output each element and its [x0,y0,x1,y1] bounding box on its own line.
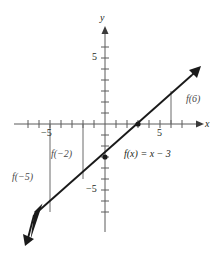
x-tick-label-neg5: −5 [41,127,52,138]
label-f-6: f(6) [186,93,200,104]
graph-canvas [0,0,222,255]
point-y-intercept [102,154,107,159]
x-axis-arrowhead [196,121,204,128]
x-tick-label-pos5: 5 [157,127,162,138]
y-axis-arrowhead [102,26,109,34]
function-equation-label: f(x) = x − 3 [124,148,171,159]
y-axis [101,26,109,232]
label-f-neg2: f(−2) [51,148,72,159]
y-tick-label-neg5: −5 [86,183,97,194]
label-f-neg5: f(−5) [12,171,33,182]
y-tick-label-pos5: 5 [92,51,97,62]
x-axis-label: x [205,118,209,129]
function-graph-figure: x y −5 5 5 −5 f(x) = x − 3 f(−5) f(−2) f… [0,0,222,255]
y-axis-label: y [100,12,104,23]
point-x-intercept [135,121,140,126]
